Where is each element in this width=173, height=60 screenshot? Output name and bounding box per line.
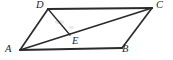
segment-de xyxy=(48,9,70,35)
side-bc xyxy=(122,8,152,48)
vertex-label-d: D xyxy=(36,0,44,11)
side-dc xyxy=(48,8,152,9)
geometry-figure: D C A E B xyxy=(0,0,173,60)
vertex-label-c: C xyxy=(156,0,163,11)
vertex-label-b: B xyxy=(122,44,128,55)
side-ad xyxy=(20,9,48,50)
side-ab xyxy=(20,48,122,50)
figure-canvas xyxy=(0,0,173,60)
vertex-label-e: E xyxy=(72,36,78,47)
vertex-label-a: A xyxy=(5,44,11,55)
diagonal-ac xyxy=(20,8,152,50)
segments-group xyxy=(20,8,152,50)
